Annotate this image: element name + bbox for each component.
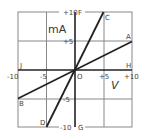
origin-label: O xyxy=(77,73,83,81)
x-axis-unit: V xyxy=(111,79,120,92)
point-label-a: A xyxy=(126,33,131,41)
y-tick-neg5: -5 xyxy=(63,96,70,104)
y-tick-pos5: +5 xyxy=(63,38,73,46)
point-label-h: H xyxy=(126,62,131,70)
point-label-c: C xyxy=(105,14,110,22)
y-tick-neg10: -10 xyxy=(60,124,71,132)
point-label-f: F xyxy=(78,9,82,17)
y-tick-pos10: +10 xyxy=(63,9,78,17)
point-label-d: D xyxy=(40,119,45,127)
point-label-b: B xyxy=(19,100,24,108)
iv-characteristic-chart: +10 +5 -5 -10 -10 -5 O +5 +10 mA V F C A… xyxy=(0,0,144,140)
x-tick-neg10: -10 xyxy=(7,73,18,81)
point-label-g: G xyxy=(78,124,83,132)
y-axis-unit: mA xyxy=(48,23,67,36)
x-tick-neg5: -5 xyxy=(40,73,47,81)
x-tick-pos5: +5 xyxy=(99,73,109,81)
point-label-j: J xyxy=(19,62,22,70)
x-tick-pos10: +10 xyxy=(124,73,139,81)
